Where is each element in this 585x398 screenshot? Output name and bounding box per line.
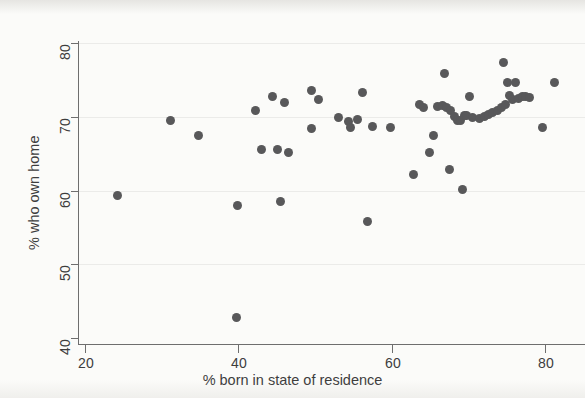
data-point	[465, 92, 474, 101]
data-point	[538, 123, 547, 132]
data-point	[425, 148, 434, 157]
y-tick-label-60: 60	[57, 192, 73, 216]
data-point	[233, 201, 242, 210]
y-tick-label-80: 80	[57, 44, 73, 68]
data-point	[280, 98, 289, 107]
data-point	[273, 145, 282, 154]
x-tick-mark-40	[238, 345, 239, 353]
data-point	[307, 86, 316, 95]
scatter-plot-figure: 80 70 60 50 40 20 40 60 80 % who own hom…	[0, 0, 585, 398]
data-point	[358, 88, 367, 97]
x-tick-mark-60	[392, 345, 393, 353]
data-point	[166, 116, 175, 125]
data-point	[268, 92, 277, 101]
data-point	[550, 78, 559, 87]
data-point	[334, 113, 343, 122]
x-axis-title: % born in state of residence	[0, 372, 585, 388]
data-point	[511, 78, 520, 87]
data-point	[307, 124, 316, 133]
y-tick-label-40: 40	[57, 339, 73, 363]
y-axis-title: % who own home	[26, 136, 42, 250]
data-point	[251, 106, 260, 115]
x-tick-mark-20	[85, 345, 86, 353]
gridline-80	[79, 43, 585, 44]
data-point	[194, 131, 203, 140]
data-point	[499, 58, 508, 67]
data-point	[113, 191, 122, 200]
data-point	[363, 217, 372, 226]
gridline-70	[79, 117, 585, 118]
data-point	[257, 145, 266, 154]
data-point	[445, 165, 454, 174]
x-tick-label-80: 80	[537, 355, 555, 371]
y-tick-label-50: 50	[57, 265, 73, 289]
data-point	[440, 69, 449, 78]
x-axis-line	[78, 344, 585, 345]
gridline-50	[79, 264, 585, 265]
y-tick-label-70: 70	[57, 118, 73, 142]
data-point	[419, 103, 428, 112]
data-point	[429, 131, 438, 140]
data-point	[458, 185, 467, 194]
data-point	[346, 123, 355, 132]
data-point	[368, 122, 377, 131]
data-point	[232, 313, 241, 322]
data-point	[409, 170, 418, 179]
x-tick-mark-80	[545, 345, 546, 353]
x-tick-label-20: 20	[77, 355, 95, 371]
x-tick-label-60: 60	[384, 355, 402, 371]
data-point	[276, 197, 285, 206]
x-tick-label-40: 40	[230, 355, 248, 371]
data-point	[314, 95, 323, 104]
data-point	[284, 148, 293, 157]
gridline-60	[79, 191, 585, 192]
y-axis-line	[78, 41, 79, 345]
data-point	[353, 115, 362, 124]
data-point	[525, 93, 534, 102]
data-point	[386, 123, 395, 132]
